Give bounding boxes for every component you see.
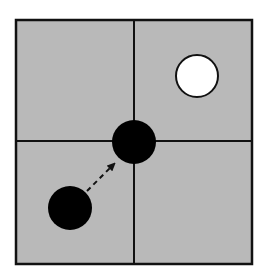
white-piece xyxy=(176,55,218,97)
black-piece-origin xyxy=(48,186,92,230)
board-diagram xyxy=(0,0,271,279)
black-piece-center xyxy=(112,120,156,164)
